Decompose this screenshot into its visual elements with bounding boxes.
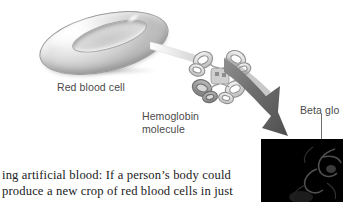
- body-line-1: ing artificial blood: If a person’s body…: [2, 168, 260, 184]
- body-paragraph: ing artificial blood: If a person’s body…: [2, 168, 260, 199]
- tapered-arrow-icon: [222, 56, 300, 142]
- figure-page: Red blood cell: [0, 0, 343, 202]
- hemoglobin-label-line2: molecule: [142, 123, 185, 135]
- beta-globin-ribbon-icon: [261, 139, 343, 202]
- body-line-2: produce a new crop of red blood cells in…: [2, 184, 260, 200]
- hemoglobin-label: Hemoglobinmolecule: [142, 110, 199, 135]
- beta-globin-closeup-panel: [261, 139, 343, 202]
- red-blood-cell-label: Red blood cell: [57, 81, 125, 94]
- beta-globin-label: Beta glo: [300, 104, 339, 117]
- hemoglobin-label-line1: Hemoglobin: [142, 110, 199, 122]
- beta-globin-leader-line: [321, 114, 322, 140]
